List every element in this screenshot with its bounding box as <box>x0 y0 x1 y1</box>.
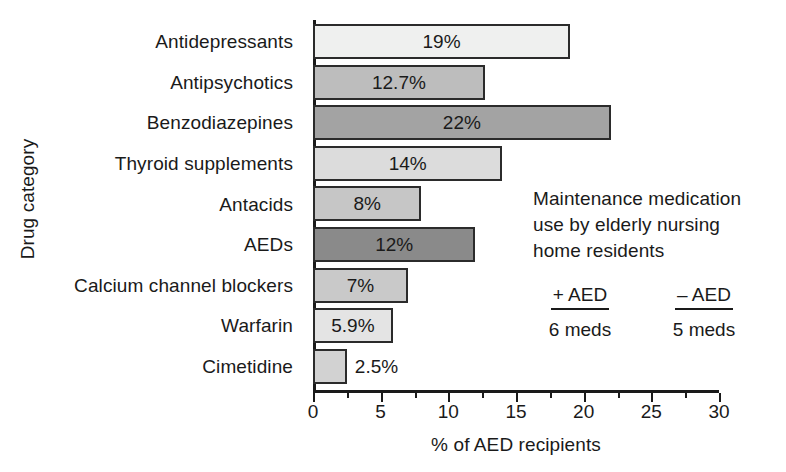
annotation-line: home residents <box>533 238 783 264</box>
bar-row: 14% <box>313 144 719 185</box>
bar-value-label: 8% <box>313 186 421 221</box>
x-axis-tick-label: 30 <box>699 401 739 423</box>
annotation-column-header: + AED <box>551 284 609 310</box>
x-axis-tick-label: 5 <box>361 401 401 423</box>
category-label: Calcium channel blockers <box>40 266 302 307</box>
bar-value-label: 14% <box>313 146 502 181</box>
x-axis-minor-tick <box>550 393 552 398</box>
annotation-line: use by elderly nursing <box>533 212 783 238</box>
x-axis-tick-label: 15 <box>496 401 536 423</box>
x-axis-minor-tick <box>685 393 687 398</box>
category-label: Antidepressants <box>40 22 302 63</box>
x-axis-minor-tick <box>347 393 349 398</box>
bar-row: 12.7% <box>313 63 719 104</box>
category-label: Antipsychotics <box>40 63 302 104</box>
x-axis-minor-tick <box>618 393 620 398</box>
annotation-column: – AED5 meds <box>663 284 745 341</box>
bar-value-label: 2.5% <box>355 349 398 384</box>
annotation-column-value: 5 meds <box>663 319 745 341</box>
bar-value-label: 5.9% <box>313 308 393 343</box>
x-axis-tick-label: 25 <box>631 401 671 423</box>
category-label: Antacids <box>40 184 302 225</box>
annotation-comparison-table: + AED6 meds– AED5 meds <box>533 284 783 341</box>
annotation-column-value: 6 meds <box>539 319 621 341</box>
x-axis-tick-label: 20 <box>564 401 604 423</box>
bar-value-label: 7% <box>313 268 408 303</box>
bar-value-label: 22% <box>313 105 611 140</box>
bar-value-label: 19% <box>313 24 570 59</box>
category-label: Cimetidine <box>40 347 302 388</box>
bar-value-label: 12% <box>313 227 475 262</box>
annotation-column-header: – AED <box>675 284 733 310</box>
annotation-text: Maintenance medicationuse by elderly nur… <box>533 186 783 264</box>
bar-row: 19% <box>313 22 719 63</box>
x-axis-minor-tick <box>415 393 417 398</box>
category-label: Thyroid supplements <box>40 144 302 185</box>
x-axis-tick-label: 0 <box>293 401 333 423</box>
bar-chart-figure: Drug category AntidepressantsAntipsychot… <box>0 0 786 472</box>
category-label: Warfarin <box>40 306 302 347</box>
category-label: AEDs <box>40 225 302 266</box>
bar <box>313 349 347 384</box>
bar-row: 22% <box>313 103 719 144</box>
bar-row: 2.5% <box>313 347 719 388</box>
x-axis-title: % of AED recipients <box>313 434 719 456</box>
bar-value-label: 12.7% <box>313 65 485 100</box>
annotation-line: Maintenance medication <box>533 186 783 212</box>
x-axis-minor-tick <box>482 393 484 398</box>
annotation-block: Maintenance medicationuse by elderly nur… <box>533 186 783 341</box>
annotation-column: + AED6 meds <box>539 284 621 341</box>
category-label-list: AntidepressantsAntipsychoticsBenzodiazep… <box>40 22 302 387</box>
y-axis-title: Drug category <box>17 109 39 289</box>
category-label: Benzodiazepines <box>40 103 302 144</box>
x-axis-tick-label: 10 <box>428 401 468 423</box>
